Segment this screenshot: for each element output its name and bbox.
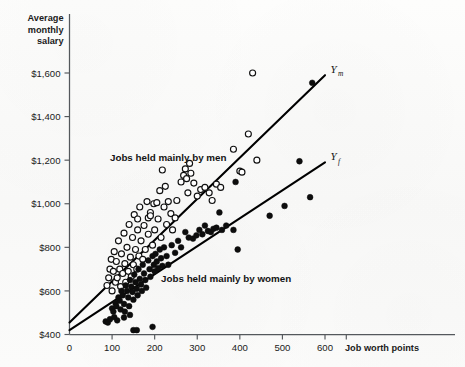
data-point: [135, 292, 141, 298]
data-point: [254, 157, 260, 163]
data-point: [150, 242, 156, 248]
data-point: [124, 288, 130, 294]
data-point: [158, 235, 164, 241]
data-point: [178, 244, 184, 250]
data-point: [157, 188, 163, 194]
data-point: [172, 250, 178, 256]
data-point: [114, 275, 120, 281]
data-point: [127, 254, 133, 260]
data-point: [152, 227, 158, 233]
data-point: [233, 179, 239, 185]
data-point: [158, 255, 164, 261]
data-point: [309, 80, 315, 86]
data-point: [137, 204, 143, 210]
data-point: [115, 238, 121, 244]
data-point: [184, 176, 190, 182]
data-point: [147, 213, 153, 219]
data-point: [145, 258, 151, 264]
data-point: [185, 190, 191, 196]
data-point: [122, 261, 128, 267]
data-point: [161, 204, 167, 210]
data-point: [194, 193, 200, 199]
regression-label-subscript-Yf: f: [338, 157, 341, 166]
data-point: [109, 288, 115, 294]
data-point: [130, 297, 136, 303]
y-axis-title-line: monthly: [28, 25, 65, 35]
data-point: [121, 315, 127, 321]
data-point: [175, 238, 181, 244]
data-point: [154, 200, 160, 206]
y-tick-label: $800: [39, 242, 60, 253]
data-point: [202, 223, 208, 229]
data-point: [307, 194, 313, 200]
data-point: [188, 170, 194, 176]
x-tick-label: 500: [274, 342, 290, 353]
y-tick-label: $1,600: [31, 68, 60, 79]
data-point: [172, 215, 178, 221]
chart-annotation: Jobs held mainly by women: [161, 273, 291, 284]
data-point: [144, 199, 150, 205]
data-point: [123, 283, 129, 289]
data-point: [169, 242, 175, 248]
data-point: [209, 197, 215, 203]
data-point: [267, 213, 273, 219]
regression-label-subscript-Ym: m: [338, 69, 344, 78]
data-point: [142, 247, 148, 253]
data-point: [138, 281, 144, 287]
data-point: [120, 292, 126, 298]
data-point: [136, 266, 142, 272]
data-point: [150, 324, 156, 330]
x-tick-label: 200: [147, 342, 163, 353]
data-point: [135, 216, 141, 222]
data-point: [199, 231, 205, 237]
data-point: [164, 253, 170, 259]
data-point: [141, 271, 147, 277]
y-axis-title-line: Average: [28, 13, 64, 23]
data-point: [114, 317, 120, 323]
y-axis-title: Averagemonthlysalary: [28, 13, 65, 46]
series-women: [103, 80, 315, 333]
x-tick-label: 600: [317, 342, 333, 353]
data-point: [121, 230, 127, 236]
data-point: [191, 180, 197, 186]
y-tick-label: $1,400: [31, 111, 60, 122]
data-point: [133, 247, 139, 253]
data-point: [155, 216, 161, 222]
data-point: [118, 251, 124, 257]
x-tick-label: 400: [232, 342, 248, 353]
data-point: [159, 167, 165, 173]
data-point: [127, 312, 133, 318]
data-point: [161, 244, 167, 250]
data-point: [142, 277, 148, 283]
chart-page: $400$600$800$1,000$1,200$1,400$1,6000100…: [0, 0, 465, 367]
y-tick-label: $1,200: [31, 155, 60, 166]
data-point: [219, 227, 225, 233]
y-axis-title-line: salary: [37, 36, 64, 46]
chart-annotation: Jobs held mainly by men: [110, 152, 227, 163]
data-point: [138, 238, 144, 244]
scatter-plot: $400$600$800$1,000$1,200$1,400$1,6000100…: [0, 0, 465, 367]
data-point: [164, 221, 170, 227]
data-point: [130, 235, 136, 241]
data-point: [206, 190, 212, 196]
data-point: [145, 231, 151, 237]
data-point: [148, 274, 154, 280]
data-point: [104, 282, 110, 288]
data-point: [137, 276, 143, 282]
data-point: [159, 263, 165, 269]
data-point: [239, 169, 245, 175]
y-tick-label: $400: [39, 329, 60, 340]
data-point: [122, 309, 128, 315]
regression-line-Yf: [70, 162, 326, 330]
x-tick-label: 300: [189, 342, 205, 353]
data-point: [153, 251, 159, 257]
y-tick-label: $1,000: [31, 198, 60, 209]
data-point: [113, 259, 119, 265]
data-point: [162, 183, 168, 189]
data-point: [174, 197, 180, 203]
data-point: [124, 244, 130, 250]
data-point: [230, 146, 236, 152]
data-point: [128, 284, 134, 290]
data-point: [223, 223, 229, 229]
data-point: [282, 203, 288, 209]
